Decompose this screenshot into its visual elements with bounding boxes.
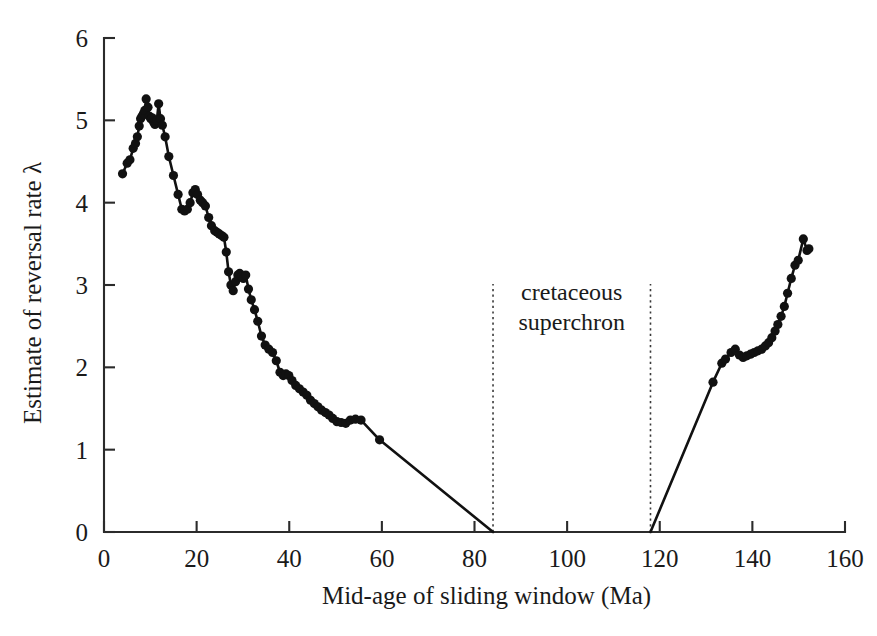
reversal-rate-old-point (776, 312, 785, 321)
reversal-rate-young-point (201, 201, 210, 210)
x-tick-label-120: 120 (641, 545, 679, 572)
reversal-rate-young-point (161, 132, 170, 141)
reversal-rate-young-point (158, 121, 167, 130)
reversal-rate-figure: cretaceoussuperchron 0123456020406080100… (0, 0, 877, 636)
x-tick-label-100: 100 (548, 545, 586, 572)
x-tick-label-20: 20 (184, 545, 209, 572)
reversal-rate-young-point (186, 198, 195, 207)
x-tick-label-60: 60 (369, 545, 394, 572)
x-tick-label-0: 0 (98, 545, 111, 572)
reversal-rate-young-line (123, 99, 494, 532)
y-tick-label-4: 4 (76, 190, 89, 217)
axis-spines (104, 38, 845, 532)
reversal-rate-young-point (222, 247, 231, 256)
chart-axes (104, 38, 845, 532)
reversal-rate-young-point (253, 317, 262, 326)
reversal-rate-young-point (241, 271, 250, 280)
superchron-label-line-1: cretaceous (521, 279, 622, 305)
reversal-rate-young-point (118, 169, 127, 178)
reversal-rate-young-point (272, 356, 281, 365)
reversal-rate-young-point (133, 132, 142, 141)
reversal-rate-young-point (174, 190, 183, 199)
reversal-rate-young-point (169, 171, 178, 180)
reversal-rate-young-point (125, 155, 134, 164)
reversal-rate-young-point (143, 103, 152, 112)
reversal-rate-young-point (247, 295, 256, 304)
y-tick-label-3: 3 (76, 272, 89, 299)
reversal-rate-young-point (204, 213, 213, 222)
reversal-rate-young-point (219, 233, 228, 242)
y-axis-title: Estimate of reversal rate λ (19, 162, 46, 424)
y-tick-label-2: 2 (76, 354, 89, 381)
reversal-rate-young-point (250, 305, 259, 314)
x-tick-label-160: 160 (826, 545, 864, 572)
reversal-rate-old-point (783, 289, 792, 298)
reversal-rate-old-point (799, 234, 808, 243)
reversal-rate-young-point (229, 286, 238, 295)
superchron-label-line-2: superchron (518, 309, 625, 335)
reversal-rate-old-line (650, 239, 808, 532)
reversal-rate-old-point (780, 302, 789, 311)
reversal-rate-young-point (142, 94, 151, 103)
reversal-rate-old-point (773, 320, 782, 329)
y-tick-label-5: 5 (76, 107, 89, 134)
reversal-rate-old-point (794, 256, 803, 265)
reversal-rate-young-point (375, 435, 384, 444)
reversal-rate-young-point (154, 99, 163, 108)
reversal-rate-series (118, 94, 814, 532)
reversal-rate-young-point (356, 415, 365, 424)
x-tick-label-80: 80 (462, 545, 487, 572)
x-axis-title: Mid-age of sliding window (Ma) (322, 582, 651, 610)
reversal-rate-young-point (268, 348, 277, 357)
y-tick-label-6: 6 (76, 25, 89, 52)
reversal-rate-young-point (224, 267, 233, 276)
reversal-rate-old-point (708, 378, 717, 387)
y-tick-label-1: 1 (76, 437, 89, 464)
reversal-rate-young-point (257, 331, 266, 340)
reversal-rate-old-point (804, 244, 813, 253)
x-tick-label-140: 140 (734, 545, 772, 572)
reversal-rate-young-point (164, 152, 173, 161)
reversal-rate-old-point (787, 274, 796, 283)
cretaceous-superchron-band: cretaceoussuperchron (493, 279, 650, 532)
x-tick-label-40: 40 (277, 545, 302, 572)
reversal-rate-chart: cretaceoussuperchron 0123456020406080100… (0, 0, 877, 636)
reversal-rate-young-point (244, 285, 253, 294)
y-tick-label-0: 0 (76, 519, 89, 546)
